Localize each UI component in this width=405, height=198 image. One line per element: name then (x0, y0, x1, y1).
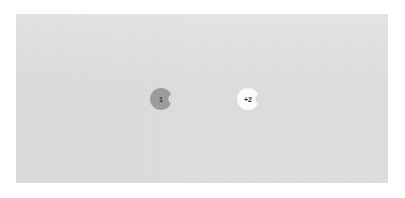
avatar-overflow-badge[interactable]: +2 (237, 88, 259, 110)
avatar-badge[interactable]: 1 (150, 88, 172, 110)
header-bar: Slide 1 (0, 0, 405, 14)
avatar-overflow-label: +2 (237, 88, 259, 110)
avatar-label: 1 (150, 88, 172, 110)
collaborator-avatar-stack: 1 +2 (16, 14, 388, 183)
app-root: Slide 1 1 (0, 0, 405, 198)
page-title: Slide 1 (29, 0, 55, 3)
canvas-panel[interactable]: 1 +2 (16, 14, 388, 183)
